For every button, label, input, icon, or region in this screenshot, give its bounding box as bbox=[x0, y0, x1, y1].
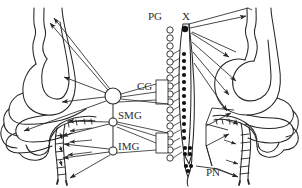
cord-neuron bbox=[182, 136, 186, 140]
ganglion-box-upper bbox=[156, 80, 168, 104]
anatomy-diagram: CG SMG IMG PG X PN bbox=[0, 0, 302, 188]
cord-neuron bbox=[182, 129, 186, 133]
cord-neuron bbox=[182, 101, 186, 105]
label-inferior-mesenteric-ganglion: IMG bbox=[118, 140, 139, 152]
label-celiac-ganglion: CG bbox=[137, 80, 152, 92]
cord-neuron bbox=[182, 122, 186, 126]
pg-node bbox=[167, 51, 173, 57]
ganglion-box-lower bbox=[156, 133, 168, 153]
cord-neuron bbox=[182, 87, 186, 91]
pg-node bbox=[167, 35, 173, 41]
pg-node bbox=[167, 67, 173, 73]
label-superior-mesenteric-ganglion: SMG bbox=[118, 109, 142, 121]
cord-neuron bbox=[182, 115, 186, 119]
pg-node bbox=[167, 59, 173, 65]
sacral-neuron bbox=[183, 152, 187, 156]
cord-neuron bbox=[182, 52, 186, 56]
sacral-neuron bbox=[183, 146, 187, 150]
cord-neuron bbox=[182, 80, 186, 84]
cord-neuron bbox=[182, 66, 186, 70]
sacral-neuron bbox=[184, 164, 188, 168]
right-rectum-tip-b bbox=[239, 181, 240, 185]
sacral-neuron bbox=[189, 164, 193, 168]
sacral-neuron bbox=[188, 152, 192, 156]
pg-node bbox=[167, 155, 173, 161]
diagram-canvas: CG SMG IMG PG X PN bbox=[0, 0, 302, 188]
inferior-mesenteric-ganglion-node bbox=[109, 147, 117, 155]
pg-node bbox=[167, 43, 173, 49]
pg-node bbox=[167, 27, 173, 33]
cord-neuron bbox=[182, 108, 186, 112]
left-rectum-tip-b bbox=[66, 181, 67, 185]
label-vagus-nerve: X bbox=[182, 10, 190, 22]
superior-mesenteric-ganglion-node bbox=[109, 118, 117, 126]
left-rectum-tip-a bbox=[57, 180, 58, 184]
cord-neuron bbox=[182, 59, 186, 63]
right-rectum-tip-a bbox=[248, 180, 249, 184]
sacral-neuron bbox=[188, 146, 192, 150]
cord-neuron bbox=[182, 94, 186, 98]
pg-node bbox=[167, 107, 173, 113]
cord-neuron bbox=[182, 73, 186, 77]
sacral-neuron bbox=[186, 169, 190, 173]
pg-node bbox=[167, 115, 173, 121]
label-pelvic-nerve: PN bbox=[206, 166, 220, 178]
label-prevertebral-ganglia: PG bbox=[148, 10, 162, 22]
pg-node bbox=[167, 123, 173, 129]
vagus-neuron-soma bbox=[182, 26, 188, 32]
